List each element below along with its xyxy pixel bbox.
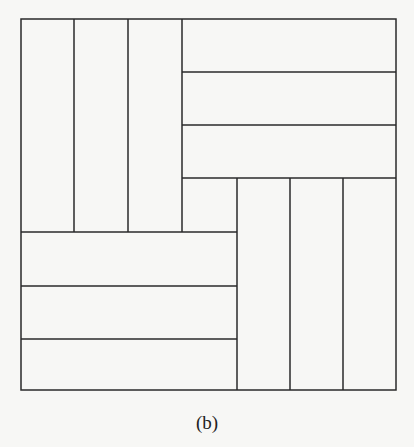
bottom-left-horizontal-strips — [21, 232, 237, 339]
bottom-right-vertical-strips — [237, 178, 343, 390]
parquet-tiling-diagram — [0, 0, 414, 447]
top-right-horizontal-strips — [182, 72, 396, 178]
figure-caption: (b) — [0, 412, 414, 434]
top-left-vertical-strips — [74, 19, 182, 232]
outer-frame — [21, 19, 396, 390]
